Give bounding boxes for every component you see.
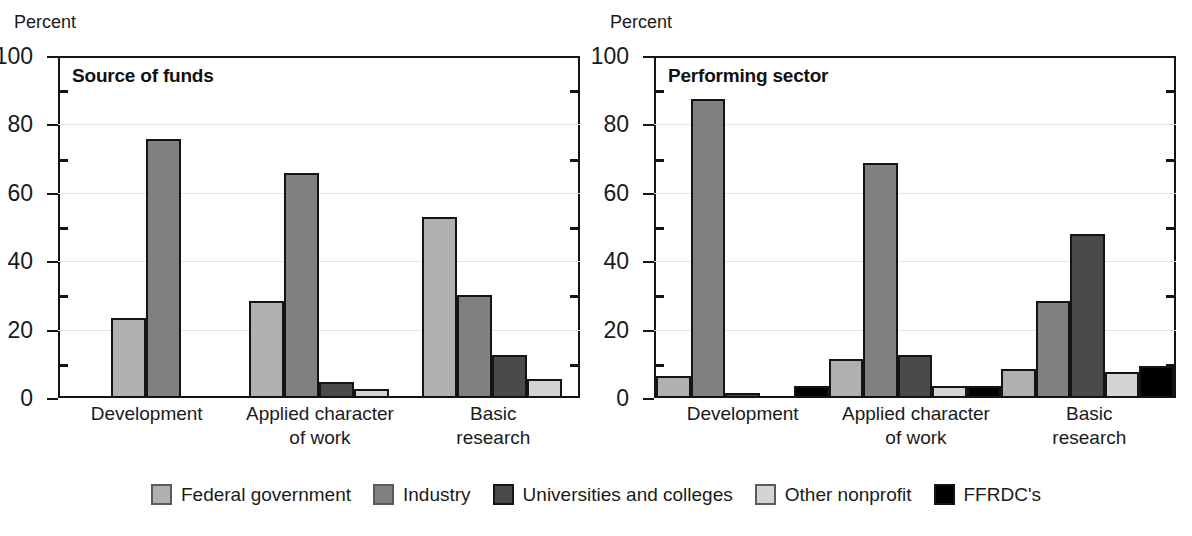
y-tick-label-0: 0 (616, 387, 629, 410)
bar-groups (656, 58, 1174, 396)
plot-area-source-of-funds: 100 80 60 40 20 0 (58, 56, 580, 398)
bar-federal-government (656, 376, 691, 396)
y-tick-label-0: 0 (20, 387, 33, 410)
y-tick-label-20: 20 (7, 318, 33, 341)
bar-ffrdc (794, 386, 829, 396)
x-label-line2: of work (233, 426, 406, 450)
x-axis-category-labels: Development Applied character of work Ba… (60, 402, 580, 450)
legend-swatch-icon (934, 484, 955, 505)
y-tick-label-60: 60 (603, 181, 629, 204)
chart-panel-source-of-funds: Percent 100 80 60 (0, 0, 596, 472)
bar-ffrdc (967, 386, 1002, 396)
legend-label: Industry (403, 484, 471, 505)
bar-other-nonprofit (527, 379, 562, 396)
bar-industry (1036, 301, 1071, 396)
bar-federal-government (829, 359, 864, 396)
bar-federal-government (111, 318, 146, 396)
y-tick-100: 100 (47, 56, 58, 58)
bar-ffrdc (1139, 366, 1174, 396)
legend-swatch-icon (151, 484, 172, 505)
y-tick-80: 80 (643, 124, 654, 126)
x-label-line1: Basic (1066, 403, 1112, 424)
x-label-line1: Development (687, 403, 799, 424)
bar-universities-and-colleges (898, 355, 933, 396)
y-tick-label-100: 100 (591, 45, 629, 68)
bar-group-development (60, 58, 233, 396)
legend-label: Other nonprofit (785, 484, 912, 505)
x-label-applied-character-of-work: Applied character of work (233, 402, 406, 450)
y-tick-20: 20 (643, 330, 654, 332)
bar-federal-government (249, 301, 284, 396)
x-label-basic-research: Basic research (1003, 402, 1176, 450)
bar-universities-and-colleges (319, 382, 354, 396)
y-axis-unit-label: Percent (610, 12, 672, 32)
bar-groups (60, 58, 578, 396)
grouped-bar-chart-figure: Percent 100 80 60 (0, 0, 1192, 536)
bar-universities-and-colleges (725, 393, 760, 396)
y-tick-100: 100 (643, 56, 654, 58)
legend-swatch-icon (373, 484, 394, 505)
x-label-basic-research: Basic research (407, 402, 580, 450)
legend-label: Federal government (181, 484, 351, 505)
x-label-line2: research (407, 426, 580, 450)
y-tick-40: 40 (47, 261, 58, 263)
x-label-line1: Development (91, 403, 203, 424)
chart-legend: Federal government Industry Universities… (0, 474, 1192, 514)
bar-group-basic-research (1001, 58, 1174, 396)
chart-panel-performing-sector: Percent 100 80 60 (596, 0, 1192, 472)
y-tick-label-80: 80 (603, 113, 629, 136)
legend-item-federal-government: Federal government (151, 484, 351, 505)
y-tick-40: 40 (643, 261, 654, 263)
legend-swatch-icon (493, 484, 514, 505)
x-axis-category-labels: Development Applied character of work Ba… (656, 402, 1176, 450)
y-tick-label-100: 100 (0, 45, 33, 68)
y-tick-label-60: 60 (7, 181, 33, 204)
legend-item-ffrdc: FFRDC's (934, 484, 1042, 505)
bar-universities-and-colleges (1070, 234, 1105, 396)
bar-universities-and-colleges (492, 355, 527, 396)
legend-item-universities-and-colleges: Universities and colleges (493, 484, 733, 505)
y-tick-0: 0 (47, 398, 58, 400)
x-label-line1: Basic (470, 403, 516, 424)
y-tick-60: 60 (47, 193, 58, 195)
bar-other-nonprofit (1105, 372, 1140, 396)
bar-industry (457, 295, 492, 396)
x-label-line2: of work (829, 426, 1002, 450)
y-tick-label-80: 80 (7, 113, 33, 136)
y-axis-unit-label: Percent (14, 12, 76, 32)
bar-group-development (656, 58, 829, 396)
bar-industry (146, 139, 181, 396)
y-tick-label-40: 40 (7, 250, 33, 273)
chart-panels-row: Percent 100 80 60 (0, 0, 1192, 472)
y-tick-60: 60 (643, 193, 654, 195)
legend-label: Universities and colleges (523, 484, 733, 505)
bar-industry (284, 173, 319, 396)
legend-swatch-icon (755, 484, 776, 505)
bar-industry (863, 163, 898, 396)
bar-other-nonprofit (932, 386, 967, 396)
bar-industry (691, 99, 726, 396)
x-label-development: Development (60, 402, 233, 450)
x-label-development: Development (656, 402, 829, 450)
x-label-applied-character-of-work: Applied character of work (829, 402, 1002, 450)
x-label-line1: Applied character (246, 403, 394, 424)
bar-group-applied-character-of-work (233, 58, 406, 396)
legend-item-industry: Industry (373, 484, 471, 505)
bar-group-basic-research (405, 58, 578, 396)
x-label-line2: research (1003, 426, 1176, 450)
y-tick-0: 0 (643, 398, 654, 400)
legend-item-other-nonprofit: Other nonprofit (755, 484, 912, 505)
y-tick-20: 20 (47, 330, 58, 332)
y-tick-label-40: 40 (603, 250, 629, 273)
y-tick-label-20: 20 (603, 318, 629, 341)
legend-label: FFRDC's (964, 484, 1042, 505)
bar-federal-government (422, 217, 457, 396)
plot-area-performing-sector: 100 80 60 40 20 0 (654, 56, 1176, 398)
bar-other-nonprofit (354, 389, 389, 396)
y-tick-80: 80 (47, 124, 58, 126)
bar-federal-government (1001, 369, 1036, 396)
bar-group-applied-character-of-work (829, 58, 1002, 396)
x-label-line1: Applied character (842, 403, 990, 424)
